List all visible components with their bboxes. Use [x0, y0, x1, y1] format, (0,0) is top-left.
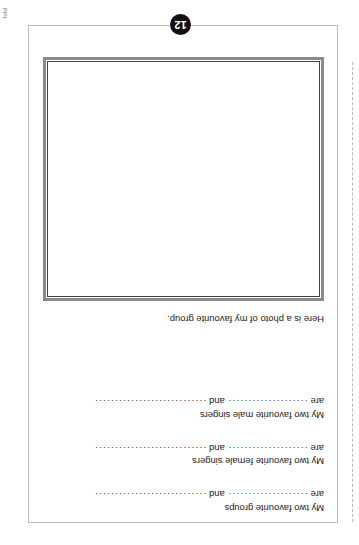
prompt-title: My two favourite male singers	[42, 408, 324, 422]
prompt-conjunction: and	[209, 489, 225, 500]
prompt-lead: are	[310, 396, 324, 407]
prompt-lead: are	[310, 443, 324, 454]
photo-caption: Here is a photo of my favourite group.	[28, 314, 338, 325]
trim-guide-line	[352, 62, 353, 522]
prompt-list: My two favourite groups are ············…	[28, 375, 338, 515]
photo-frame-inner-rule	[47, 61, 320, 297]
blank-line-1[interactable]: ····················	[227, 443, 307, 454]
prompt-answer-line[interactable]: are ···················· and ···········…	[42, 394, 324, 408]
prompt-conjunction: and	[209, 396, 225, 407]
blank-line-2[interactable]: ····························	[94, 489, 207, 500]
blank-line-2[interactable]: ····························	[94, 443, 207, 454]
blank-line-1[interactable]: ····················	[227, 489, 307, 500]
prompt-conjunction: and	[209, 443, 225, 454]
prompt-title: My two favourite groups	[42, 501, 324, 515]
prompt-answer-line[interactable]: are ···················· and ···········…	[42, 487, 324, 501]
prompt-item: My two favourite groups are ············…	[42, 487, 324, 515]
prompt-lead: are	[310, 489, 324, 500]
prompt-answer-line[interactable]: are ···················· and ···········…	[42, 441, 324, 455]
blank-line-1[interactable]: ····················	[227, 396, 307, 407]
fold-label: fold	[2, 8, 8, 18]
blank-line-2[interactable]: ····························	[94, 396, 207, 407]
photo-drop-area[interactable]	[48, 62, 319, 296]
prompt-item: My two favourite male singers are ······…	[42, 394, 324, 422]
prompt-item: My two favourite female singers are ····…	[42, 441, 324, 469]
photo-frame	[43, 57, 324, 301]
worksheet-content: My two favourite groups are ············…	[28, 25, 338, 523]
prompt-title: My two favourite female singers	[42, 455, 324, 469]
